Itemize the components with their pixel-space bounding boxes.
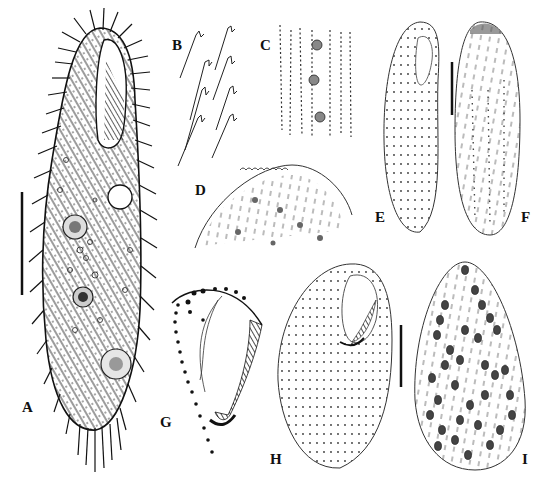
panel-f-cell [455, 22, 520, 235]
panel-label-a: A [22, 400, 33, 415]
panel-g-oral [172, 287, 262, 454]
panel-label-h: H [270, 452, 282, 467]
panel-a-cell [29, 8, 157, 472]
panel-label-i: I [522, 452, 528, 467]
panel-e-cell [384, 22, 439, 232]
panel-label-e: E [375, 210, 385, 225]
plate-drawings [0, 0, 548, 489]
panel-b-detail [178, 26, 237, 166]
panel-label-f: F [521, 210, 530, 225]
panel-d-detail [195, 165, 352, 248]
figure-plate: A B C D E F G H I [0, 0, 548, 489]
panel-h-cell [278, 264, 392, 468]
panel-c-bodies [309, 40, 325, 122]
panel-label-d: D [195, 183, 206, 198]
panel-label-b: B [172, 38, 182, 53]
panel-i-cell [415, 262, 525, 470]
panel-label-c: C [260, 38, 271, 53]
panel-label-g: G [160, 415, 172, 430]
